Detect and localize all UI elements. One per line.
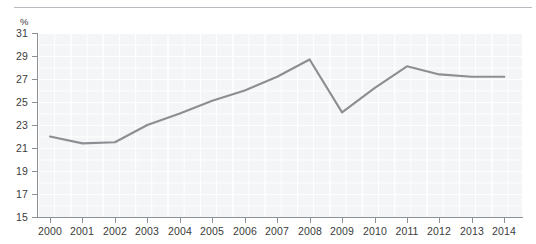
y-axis-tick [32, 79, 37, 80]
y-axis-tick [32, 56, 37, 57]
plot-area [38, 33, 522, 217]
x-axis-tick [147, 218, 148, 223]
y-axis-tick-label: 15 [4, 212, 28, 223]
y-axis-tick [32, 194, 37, 195]
y-axis-tick-label: 19 [4, 166, 28, 177]
y-axis-tick-label: 23 [4, 120, 28, 131]
y-axis-tick-label: 17 [4, 189, 28, 200]
x-axis-spine [37, 217, 523, 218]
chart-figure: % 151719212325272931 2000200120022003200… [0, 0, 536, 244]
y-axis-unit-label: % [20, 17, 28, 27]
y-axis-tick [32, 148, 37, 149]
y-axis-tick-label: 25 [4, 97, 28, 108]
x-axis-tick [180, 218, 181, 223]
top-divider-rule [14, 7, 532, 8]
x-axis-tick [212, 218, 213, 223]
x-axis-tick [407, 218, 408, 223]
x-axis-tick-label: 2014 [484, 226, 524, 237]
y-axis-tick-label: 21 [4, 143, 28, 154]
x-axis-tick [342, 218, 343, 223]
y-axis-tick [32, 171, 37, 172]
x-axis-tick [245, 218, 246, 223]
y-axis-spine [37, 33, 38, 218]
y-axis-tick-label: 29 [4, 51, 28, 62]
x-axis-tick [472, 218, 473, 223]
y-axis-tick-label: 31 [4, 28, 28, 39]
major-gridlines [38, 33, 522, 217]
y-axis-tick [32, 217, 37, 218]
x-axis-tick [439, 218, 440, 223]
y-axis-tick-label: 27 [4, 74, 28, 85]
x-axis-tick [310, 218, 311, 223]
x-axis-tick [115, 218, 116, 223]
x-axis-tick [375, 218, 376, 223]
y-axis-tick [32, 102, 37, 103]
y-axis-tick [32, 33, 37, 34]
x-axis-tick [277, 218, 278, 223]
x-axis-tick [50, 218, 51, 223]
y-axis-tick [32, 125, 37, 126]
x-axis-tick [504, 218, 505, 223]
x-axis-tick [82, 218, 83, 223]
